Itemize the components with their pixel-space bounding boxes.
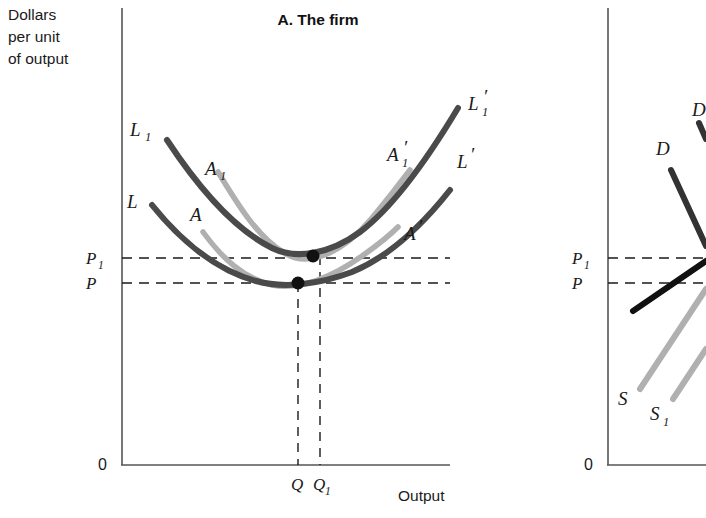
l1-prime-label-sub: 1 bbox=[482, 105, 488, 119]
a1-label-sub: 1 bbox=[220, 169, 226, 183]
figure-canvas: Dollars per unit of output A. The firm bbox=[0, 0, 706, 518]
s-label-base: S bbox=[618, 388, 628, 409]
panel-a-q1-label-sub: 1 bbox=[325, 485, 331, 497]
a1-label-base: A bbox=[203, 158, 217, 179]
a1-prime-label-sub: 1 bbox=[402, 156, 408, 170]
equilibrium-dot-p1-q1 bbox=[307, 250, 320, 263]
l1-label-sub: 1 bbox=[145, 130, 151, 144]
panel-a-curve-label-a: A bbox=[188, 204, 202, 225]
d1-label-base: D bbox=[691, 99, 706, 120]
l-prime-label-base: L bbox=[456, 151, 468, 172]
l1-label-base: L bbox=[129, 119, 141, 140]
panel-b-curve-label-s: S bbox=[618, 388, 628, 409]
d-label-base: D bbox=[655, 138, 670, 159]
panel-b-curve-label-d1: D bbox=[691, 99, 706, 120]
y-axis-caption-line-3: of output bbox=[8, 50, 69, 67]
panel-a-x-tick-q: Q bbox=[291, 475, 303, 494]
l1-prime-label-base: L bbox=[467, 93, 479, 114]
economics-figure: Dollars per unit of output A. The firm bbox=[0, 0, 706, 518]
panel-b-p1-label-sub: 1 bbox=[584, 259, 590, 271]
a-prime-label-base: A bbox=[402, 223, 416, 244]
a1-prime-label-base: A bbox=[385, 144, 399, 165]
panel-a-y-tick-p: P bbox=[85, 274, 96, 293]
a-label-base: A bbox=[188, 204, 202, 225]
panel-b-p-label: P bbox=[571, 274, 582, 293]
s1-label-sub: 1 bbox=[663, 415, 669, 429]
equilibrium-dot-p-q bbox=[292, 277, 305, 290]
y-axis-caption-line-2: per unit bbox=[8, 28, 60, 45]
panel-a-title: A. The firm bbox=[278, 11, 359, 28]
panel-b-y-tick-p: P bbox=[571, 274, 582, 293]
panel-a-q-label: Q bbox=[291, 475, 303, 494]
panel-a-q1-label: Q bbox=[313, 475, 325, 494]
panel-a-curve-label-l: L bbox=[126, 191, 138, 212]
panel-b-curve-label-d: D bbox=[655, 138, 670, 159]
panel-a-p1-label-sub: 1 bbox=[98, 259, 104, 271]
panel-a-origin-label: 0 bbox=[98, 456, 107, 473]
panel-b-origin-label: 0 bbox=[584, 456, 593, 473]
s1-label-base: S bbox=[650, 403, 660, 424]
l-label-base: L bbox=[126, 191, 138, 212]
y-axis-caption-line-1: Dollars bbox=[8, 6, 56, 23]
x-axis-caption: Output bbox=[398, 487, 445, 504]
panel-b-p1-label: P bbox=[571, 249, 582, 268]
panel-a-p-label: P bbox=[85, 274, 96, 293]
panel-a-p1-label: P bbox=[85, 249, 96, 268]
